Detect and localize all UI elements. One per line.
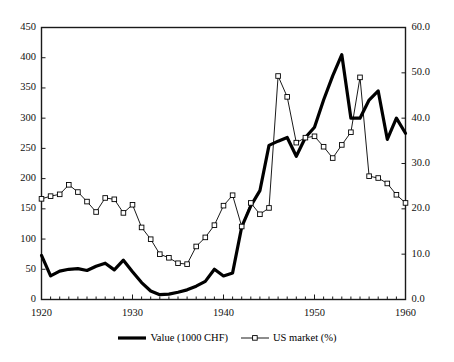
- legend-item-0: Value (1000 CHF): [117, 332, 228, 344]
- series-line-1: [42, 76, 406, 264]
- series-marker-1: [358, 75, 363, 80]
- y-left-tick-label: 50: [2, 264, 36, 275]
- legend-swatch-us-market: [240, 332, 270, 344]
- plot-frame: [42, 28, 406, 300]
- series-marker-1: [139, 225, 144, 230]
- x-tick-label: 1960: [386, 308, 426, 319]
- legend-swatch-value: [117, 332, 147, 344]
- series-marker-1: [367, 174, 372, 179]
- y-left-tick-label: 100: [2, 234, 36, 245]
- y-right-tick-label: 60.0: [412, 22, 430, 33]
- series-marker-1: [340, 143, 345, 148]
- x-tick-label: 1920: [22, 308, 62, 319]
- series-marker-1: [167, 255, 172, 260]
- axes: [42, 28, 406, 300]
- series-marker-1: [385, 181, 390, 186]
- series-marker-1: [67, 183, 72, 188]
- data-series: [39, 55, 408, 295]
- series-marker-1: [249, 201, 254, 206]
- series-marker-1: [203, 235, 208, 240]
- series-marker-1: [158, 252, 163, 257]
- y-right-tick-label: 30.0: [412, 158, 430, 169]
- series-marker-1: [221, 203, 226, 208]
- y-left-tick-label: 350: [2, 82, 36, 93]
- y-right-tick-label: 20.0: [412, 203, 430, 214]
- x-tick-label: 1940: [204, 308, 244, 319]
- y-right-tick-label: 40.0: [412, 113, 430, 124]
- series-marker-1: [349, 130, 354, 135]
- y-left-tick-label: 400: [2, 52, 36, 63]
- series-marker-1: [212, 223, 217, 228]
- series-marker-1: [76, 190, 81, 195]
- series-marker-1: [112, 197, 117, 202]
- series-marker-1: [258, 212, 263, 217]
- y-right-tick-label: 10.0: [412, 249, 430, 260]
- series-marker-1: [285, 95, 290, 100]
- y-left-tick-label: 300: [2, 113, 36, 124]
- series-line-0: [42, 55, 406, 295]
- y-right-tick-label: 0.0: [412, 294, 425, 305]
- series-marker-1: [230, 193, 235, 198]
- series-marker-1: [321, 144, 326, 149]
- legend-item-1: US market (%): [240, 332, 337, 344]
- series-marker-1: [57, 192, 62, 197]
- series-marker-1: [394, 192, 399, 197]
- series-marker-1: [39, 197, 44, 202]
- legend-label: US market (%): [273, 333, 337, 344]
- y-right-tick-label: 50.0: [412, 67, 430, 78]
- y-left-tick-label: 200: [2, 173, 36, 184]
- series-marker-1: [330, 156, 335, 161]
- series-marker-1: [103, 196, 108, 201]
- series-marker-1: [376, 176, 381, 181]
- series-marker-1: [194, 244, 199, 249]
- series-marker-1: [403, 201, 408, 206]
- series-marker-1: [312, 134, 317, 139]
- chart-legend: Value (1000 CHF)US market (%): [0, 332, 454, 344]
- series-marker-1: [185, 262, 190, 267]
- chart-figure: 0501001502002503003504004500.010.020.030…: [0, 0, 454, 362]
- series-marker-1: [176, 261, 181, 266]
- series-marker-1: [303, 135, 308, 140]
- series-marker-1: [276, 74, 281, 79]
- series-marker-1: [267, 206, 272, 211]
- legend-label: Value (1000 CHF): [150, 333, 228, 344]
- y-left-tick-label: 150: [2, 203, 36, 214]
- series-marker-1: [294, 140, 299, 145]
- series-marker-1: [121, 211, 126, 216]
- y-left-tick-label: 0: [2, 294, 36, 305]
- series-marker-1: [239, 224, 244, 229]
- series-marker-1: [48, 194, 53, 199]
- series-marker-1: [85, 199, 90, 204]
- y-left-tick-label: 450: [2, 22, 36, 33]
- x-tick-label: 1930: [113, 308, 153, 319]
- series-marker-1: [130, 202, 135, 207]
- x-tick-label: 1950: [295, 308, 335, 319]
- y-left-tick-label: 250: [2, 143, 36, 154]
- series-marker-1: [94, 210, 99, 215]
- series-marker-1: [148, 237, 153, 242]
